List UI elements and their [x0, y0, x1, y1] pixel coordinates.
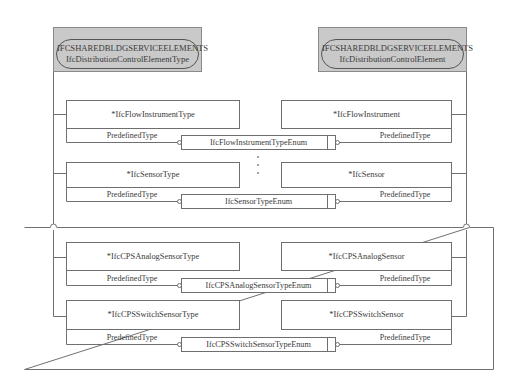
enum-divider [327, 195, 328, 208]
entity-sensor[interactable]: *IfcSensor [281, 162, 452, 188]
supertype-name: IfcDistributionControlElement [322, 54, 463, 65]
schema-name: IFCSHAREDBLDGSERVICEELEMENTS [57, 43, 198, 54]
entity-label: *IfcFlowInstrumentType [111, 110, 195, 119]
entity-label: *IfcFlowInstrument [333, 110, 400, 119]
enum-cps-analog-sensor-type[interactable]: IfcCPSAnalogSensorTypeEnum [181, 278, 336, 293]
entity-cps-analog-sensor-type[interactable]: *IfcCPSAnalogSensorType [66, 242, 240, 271]
schema-reference-pill: IFCSHAREDBLDGSERVICEELEMENTS IfcDistribu… [321, 39, 464, 69]
enum-flow-instrument-type[interactable]: IfcFlowInstrumentTypeEnum [181, 135, 336, 150]
attr-predefined-type-right: PredefinedType [365, 190, 445, 199]
supertype-name: IfcDistributionControlElementType [57, 54, 198, 65]
enum-label: IfcSensorTypeEnum [225, 197, 292, 206]
attr-predefined-type-left: PredefinedType [92, 131, 172, 140]
enum-divider [327, 338, 328, 351]
entity-label: *IfcCPSAnalogSensor [329, 252, 405, 261]
schema-name: IFCSHAREDBLDGSERVICEELEMENTS [322, 43, 463, 54]
attr-predefined-type-left: PredefinedType [92, 274, 172, 283]
entity-flow-instrument-type[interactable]: *IfcFlowInstrumentType [66, 100, 240, 129]
attr-predefined-type-left: PredefinedType [92, 333, 172, 342]
enum-sensor-type[interactable]: IfcSensorTypeEnum [181, 194, 336, 209]
attr-predefined-type-right: PredefinedType [365, 274, 445, 283]
entity-label: *IfcCPSSwitchSensor [329, 310, 403, 319]
attr-predefined-type-left: PredefinedType [92, 190, 172, 199]
entity-flow-instrument[interactable]: *IfcFlowInstrument [281, 100, 452, 129]
attr-predefined-type-right: PredefinedType [365, 333, 445, 342]
enum-divider [327, 136, 328, 149]
entity-label: *IfcSensor [348, 170, 384, 179]
entity-label: *IfcCPSSwitchSensorType [107, 310, 198, 319]
enum-divider [327, 279, 328, 292]
entity-sensor-type[interactable]: *IfcSensorType [66, 162, 240, 188]
enum-label: IfcFlowInstrumentTypeEnum [210, 138, 307, 147]
entity-cps-analog-sensor[interactable]: *IfcCPSAnalogSensor [281, 242, 452, 271]
entity-cps-switch-sensor-type[interactable]: *IfcCPSSwitchSensorType [66, 300, 240, 330]
enum-label: IfcCPSSwitchSensorTypeEnum [206, 340, 311, 349]
header-type-supertype[interactable]: IFCSHAREDBLDGSERVICEELEMENTS IfcDistribu… [53, 27, 202, 72]
entity-label: *IfcSensorType [127, 170, 180, 179]
enum-label: IfcCPSAnalogSensorTypeEnum [206, 281, 312, 290]
entity-cps-switch-sensor[interactable]: *IfcCPSSwitchSensor [281, 300, 452, 330]
entity-label: *IfcCPSAnalogSensorType [107, 252, 199, 261]
header-occurrence-supertype[interactable]: IFCSHAREDBLDGSERVICEELEMENTS IfcDistribu… [318, 27, 467, 72]
attr-predefined-type-right: PredefinedType [365, 131, 445, 140]
enum-cps-switch-sensor-type[interactable]: IfcCPSSwitchSensorTypeEnum [181, 337, 336, 352]
schema-reference-pill: IFCSHAREDBLDGSERVICEELEMENTS IfcDistribu… [56, 39, 199, 69]
